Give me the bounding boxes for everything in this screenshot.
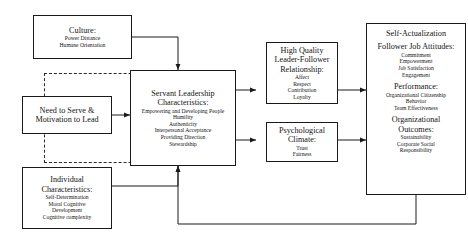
lmx-heading-line2: Leader-Follower xyxy=(275,55,330,64)
performance-item-2: Team Effectiveness xyxy=(386,105,446,112)
organizational-item-1: Corporate Social xyxy=(392,141,441,148)
organizational-heading-line1: Organizational xyxy=(392,115,441,124)
climate-item-0: Trust xyxy=(296,145,308,152)
individual-heading-line2: Characteristics: xyxy=(42,185,93,194)
sl-item-5: Stewardship xyxy=(169,141,197,148)
node-need-to-serve: Need to Serve & Motivation to Lead xyxy=(22,96,112,134)
performance-item-0: Organizational Citizenship xyxy=(386,92,446,99)
performance-heading: Performance: xyxy=(386,82,446,91)
attitudes-item-0: Commitment xyxy=(378,52,455,59)
climate-item-1: Fairness xyxy=(293,151,312,158)
climate-heading-line2: Climate: xyxy=(288,135,316,144)
lmx-item-0: Affect xyxy=(295,74,309,81)
performance-item-1: Behavior xyxy=(386,98,446,105)
outcomes-section-organizational: Organizational Outcomes: Sustainability … xyxy=(392,115,441,154)
individual-item-3: Cognitive complexity xyxy=(43,214,92,221)
node-psychological-climate: Psychological Climate: Trust Fairness xyxy=(266,122,338,162)
culture-heading: Culture: xyxy=(69,26,96,35)
lmx-item-1: Respect xyxy=(293,81,311,88)
node-individual-characteristics: Individual Characteristics: Self-Determi… xyxy=(22,167,112,229)
individual-heading-line1: Individual xyxy=(50,175,84,184)
outcomes-section-attitudes: Follower Job Attitudes: Commitment Empow… xyxy=(378,42,455,78)
individual-item-2: Development xyxy=(52,207,82,214)
lmx-heading-line3: Relationship: xyxy=(280,65,324,74)
node-outcomes: Self-Actualization Follower Job Attitude… xyxy=(366,23,466,195)
outcomes-title: Self-Actualization xyxy=(386,29,446,38)
need-to-serve-heading-line1: Need to Serve & xyxy=(40,106,95,115)
need-to-serve-heading-line2: Motivation to Lead xyxy=(35,115,98,124)
sl-item-1: Humility xyxy=(173,114,193,121)
individual-item-1: Moral Cognitive xyxy=(48,201,85,208)
sl-heading-line1: Servant Leadership xyxy=(151,89,214,98)
lmx-item-2: Contribution xyxy=(288,87,317,94)
node-culture: Culture: Power Distance Humane Orientati… xyxy=(33,15,132,59)
organizational-item-2: Responsibility xyxy=(392,147,441,154)
attitudes-item-2: Job Satisfaction xyxy=(378,65,455,72)
outcomes-section-performance: Performance: Organizational Citizenship … xyxy=(386,82,446,111)
wire-culture-to-sl xyxy=(132,37,178,70)
node-leader-follower-relationship: High Quality Leader-Follower Relationshi… xyxy=(266,42,338,104)
attitudes-item-3: Engagement xyxy=(378,72,455,79)
sl-item-4: Providing Direction xyxy=(161,134,206,141)
servant-leadership-model-diagram: Culture: Power Distance Humane Orientati… xyxy=(0,0,468,246)
sl-item-3: Interpersonal Acceptance xyxy=(155,127,212,134)
sl-item-0: Empowering and Developing People xyxy=(142,108,225,115)
culture-item-0: Power Distance xyxy=(65,35,100,42)
organizational-heading-line2: Outcomes: xyxy=(392,125,441,134)
node-servant-leadership: Servant Leadership Characteristics: Empo… xyxy=(130,70,236,166)
climate-heading-line1: Psychological xyxy=(279,126,325,135)
attitudes-heading: Follower Job Attitudes: xyxy=(378,42,455,51)
lmx-heading-line1: High Quality xyxy=(281,46,324,55)
lmx-item-3: Loyalty xyxy=(293,94,310,101)
attitudes-item-1: Empowerment xyxy=(378,58,455,65)
individual-item-0: Self-Determination xyxy=(45,194,88,201)
culture-item-1: Humane Orientation xyxy=(60,42,106,49)
wire-individual-to-sl xyxy=(112,166,178,186)
organizational-item-0: Sustainability xyxy=(392,134,441,141)
sl-heading-line2: Characteristics: xyxy=(158,98,209,107)
sl-item-2: Authenticity xyxy=(169,121,197,128)
